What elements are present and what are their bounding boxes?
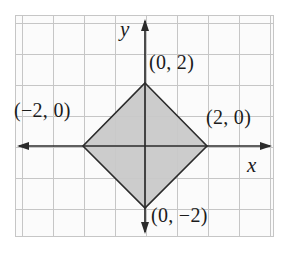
vertex-label-left: (−2, 0) <box>14 100 71 120</box>
y-axis-arrow-up <box>141 19 149 31</box>
y-axis-arrow-down <box>141 222 149 234</box>
x-axis-arrow-left <box>17 142 29 150</box>
coordinate-plane-figure: y x (0, 2) (−2, 0) (2, 0) (0, −2) <box>0 0 284 255</box>
vertex-label-right: (2, 0) <box>206 107 251 127</box>
x-axis-arrow-right <box>260 142 272 150</box>
y-axis-label: y <box>120 19 129 40</box>
vertex-label-top: (0, 2) <box>149 52 194 72</box>
vertex-label-bottom: (0, −2) <box>151 205 208 225</box>
x-axis-label: x <box>247 155 256 176</box>
